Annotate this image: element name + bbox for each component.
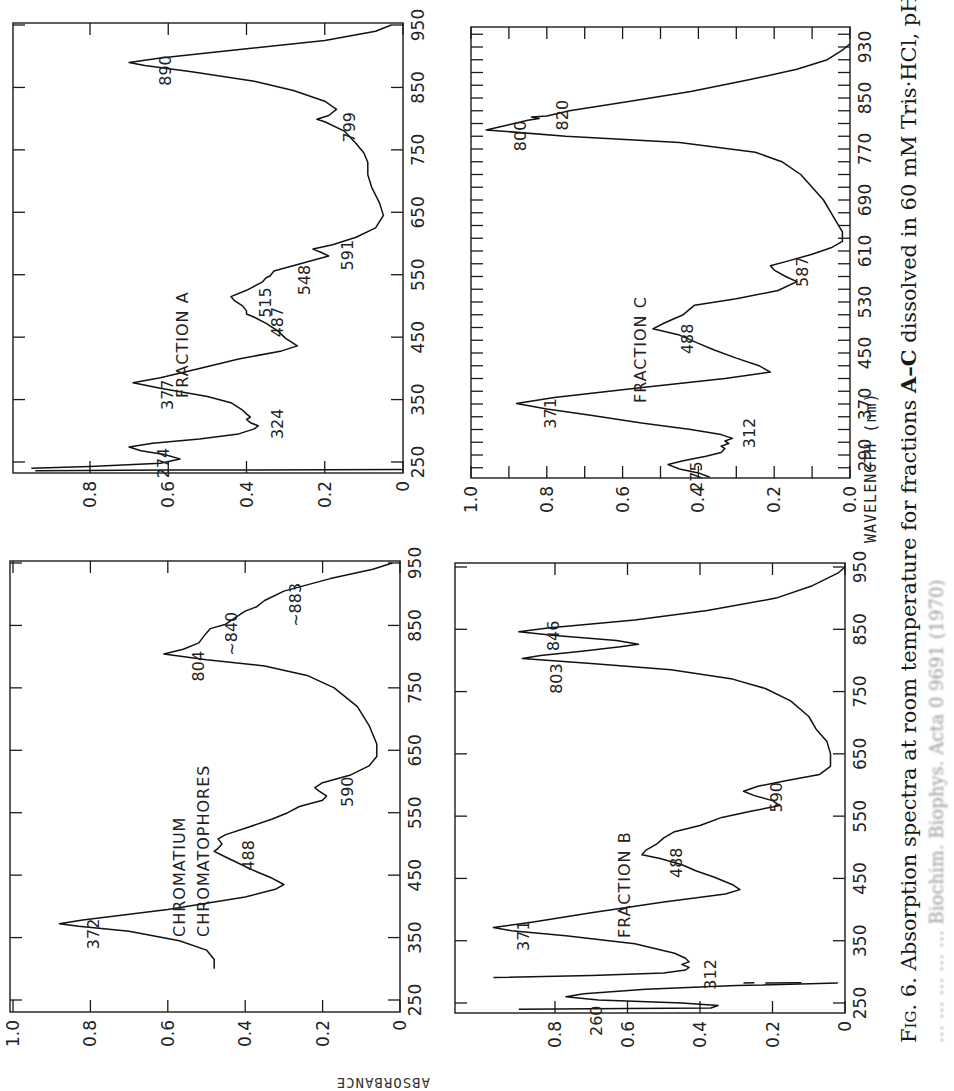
y-tick-label: 0.6 <box>613 486 633 513</box>
y-tick-label: 0.8 <box>537 486 557 513</box>
y-tick-label: 0.2 <box>764 486 784 513</box>
caption-text-2: dissolved in 60 mM Tris·HCl, pH 8.0. <box>897 0 921 349</box>
caption-line-2-cropped: … … … … … Biochim. Biophys. Acta 0 9691 … <box>926 3 948 1043</box>
peak-label: 587 <box>793 256 812 287</box>
x-tick-label: 610 <box>855 235 875 267</box>
figure-caption: Fig. 6. Absorption spectra at room tempe… <box>896 3 921 1043</box>
x-tick-label: 930 <box>855 31 875 63</box>
peak-label: 800 <box>511 121 530 152</box>
y-tick-label: 0.0 <box>840 486 860 513</box>
peak-label: 275 <box>687 461 706 492</box>
peak-label: 312 <box>740 418 759 449</box>
y-tick-label: 1.0 <box>461 486 481 513</box>
plot-frame <box>471 27 850 478</box>
peak-label: 820 <box>553 100 572 131</box>
x-tick-label: 450 <box>855 337 875 369</box>
x-tick-label: 850 <box>855 82 875 114</box>
peak-label: 371 <box>541 398 560 429</box>
caption-prefix: Fig. 6. <box>897 977 921 1043</box>
peak-label: 488 <box>678 324 697 355</box>
x-tick-label: 690 <box>855 184 875 216</box>
panel-title: FRACTION C <box>631 296 650 403</box>
caption-bold: A–C <box>896 349 921 393</box>
caption-text-1: Absorption spectra at room temperature f… <box>897 393 921 970</box>
x-tick-label: 770 <box>855 133 875 165</box>
x-axis-label: WAVELENGTH (nm) <box>862 393 880 543</box>
x-tick-label: 530 <box>855 286 875 318</box>
y-axis-label: ABSORBANCE <box>336 1075 430 1091</box>
